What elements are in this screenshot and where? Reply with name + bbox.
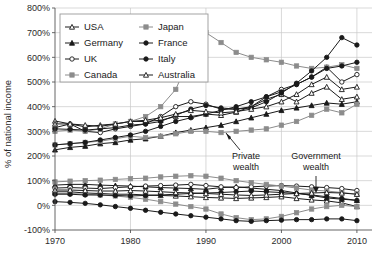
legend-label: UK: [84, 53, 98, 64]
x-tick-label: 2000: [271, 236, 291, 246]
y-tick-label: 600%: [27, 53, 50, 63]
annotation-government-wealth: Government: [291, 151, 341, 161]
y-tick-label: -100%: [24, 225, 50, 235]
annotation-private-wealth-line2: wealth: [232, 162, 259, 172]
annotation-private-wealth: Private: [232, 151, 260, 161]
x-tick-label: 1990: [196, 236, 216, 246]
y-tick-label: 400%: [27, 102, 50, 112]
legend-label: Germany: [84, 37, 123, 48]
legend-label: France: [158, 37, 188, 48]
y-tick-label: 800%: [27, 3, 50, 13]
legend-label: Japan: [158, 21, 184, 32]
y-tick-label: 200%: [27, 151, 50, 161]
y-tick-label: 100%: [27, 176, 50, 186]
chart-container: 800%700%600%500%400%300%200%100%0%-100%1…: [0, 0, 382, 258]
x-tick-label: 1980: [120, 236, 140, 246]
legend-label: Australia: [158, 69, 196, 80]
wealth-line-chart: 800%700%600%500%400%300%200%100%0%-100%1…: [0, 0, 382, 258]
y-tick-label: 0%: [37, 201, 50, 211]
annotation-government-wealth-line2: wealth: [302, 162, 329, 172]
legend-label: Canada: [84, 69, 118, 80]
y-tick-label: 700%: [27, 28, 50, 38]
x-tick-label: 2010: [347, 236, 367, 246]
y-axis-label: % of national income: [2, 80, 13, 168]
legend-label: USA: [84, 21, 104, 32]
y-tick-label: 300%: [27, 127, 50, 137]
y-tick-label: 500%: [27, 77, 50, 87]
x-tick-label: 1970: [45, 236, 65, 246]
chart-legend[interactable]: USAJapanGermanyFranceUKItalyCanadaAustra…: [60, 14, 208, 82]
legend-label: Italy: [158, 53, 176, 64]
